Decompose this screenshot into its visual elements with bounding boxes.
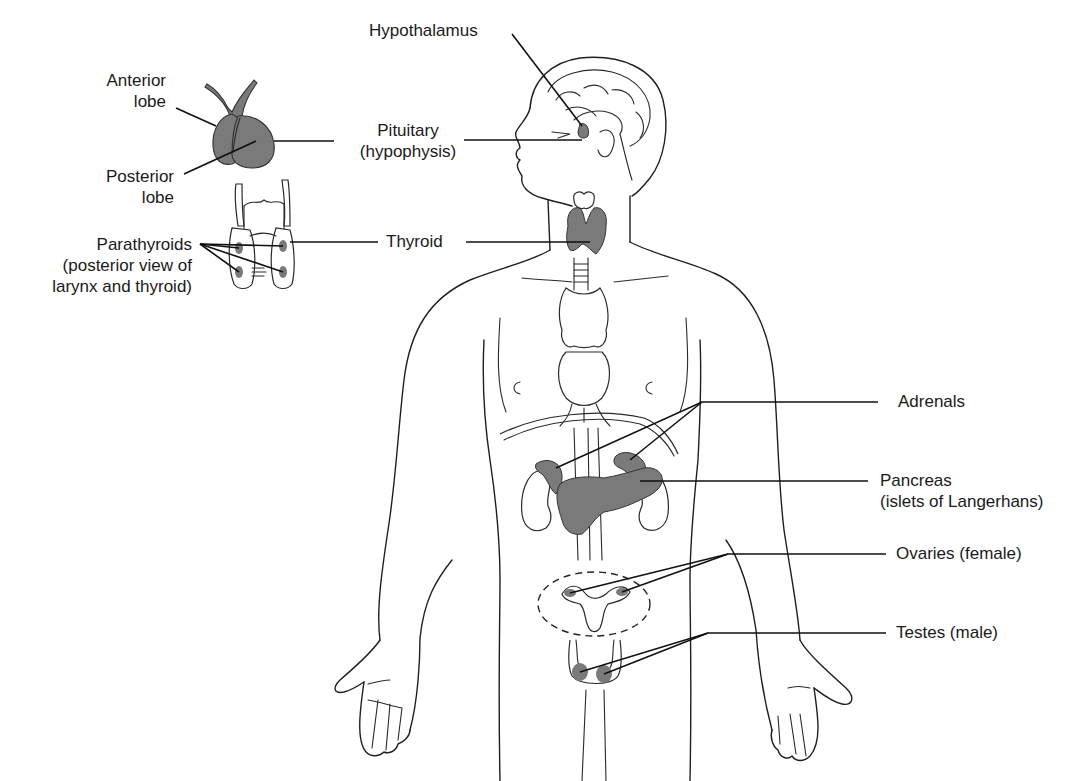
endocrine-diagram: Hypothalamus Pituitary (hypophysis) Ante… <box>0 0 1088 781</box>
label-ovaries: Ovaries (female) <box>896 543 1022 564</box>
label-adrenals: Adrenals <box>898 391 965 412</box>
thyroid-gland <box>567 208 607 254</box>
leader-lines <box>176 34 886 674</box>
label-testes: Testes (male) <box>896 622 998 643</box>
pituitary-inset <box>205 80 274 168</box>
label-parathyroids: Parathyroids (posterior view of larynx a… <box>20 234 192 297</box>
hypothalamus-region <box>578 124 589 138</box>
label-hypothalamus: Hypothalamus <box>369 20 478 41</box>
label-pancreas: Pancreas (islets of Langerhans) <box>880 470 1043 512</box>
larynx-thyroid-inset <box>229 180 294 289</box>
label-posterior-lobe: Posterior lobe <box>82 166 174 208</box>
label-thyroid: Thyroid <box>386 231 443 252</box>
label-anterior-lobe: Anterior lobe <box>84 70 166 112</box>
body-outline <box>335 57 852 781</box>
label-pituitary: Pituitary (hypophysis) <box>358 120 458 162</box>
